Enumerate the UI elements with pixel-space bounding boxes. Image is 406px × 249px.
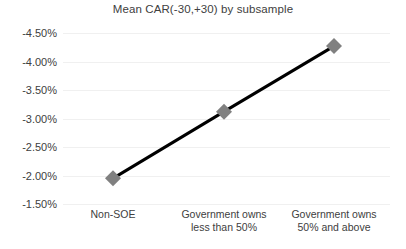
series-markers — [105, 38, 342, 186]
x-axis-tick-label: Government ownsless than 50% — [164, 208, 284, 234]
x-axis-tick-label-line: 50% and above — [274, 221, 394, 234]
x-axis-tick-label-line: less than 50% — [164, 221, 284, 234]
chart-container: Mean CAR(-30,+30) by subsample -1.50%-2.… — [0, 0, 406, 249]
x-axis-tick-label-line: Government owns — [274, 208, 394, 221]
data-point-marker — [105, 170, 121, 186]
x-axis-tick-label-line: Government owns — [164, 208, 284, 221]
data-point-marker — [216, 104, 232, 120]
x-axis-tick-label: Non-SOE — [53, 208, 173, 221]
data-point-marker — [326, 38, 342, 54]
x-axis-tick-label: Government owns50% and above — [274, 208, 394, 234]
x-axis-tick-label-line: Non-SOE — [53, 208, 173, 221]
